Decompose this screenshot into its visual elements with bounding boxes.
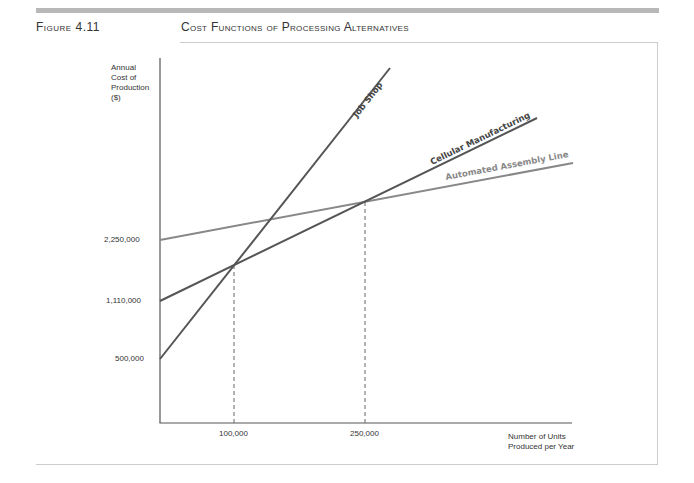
label-job-shop: Job Shop [350, 80, 385, 120]
y-tick-500000: 500,000 [115, 354, 144, 363]
x-axis-label: Number of Units Produced per Year [508, 432, 574, 452]
y-tick-2250000: 2,250,000 [104, 235, 140, 244]
line-cellular-manufacturing [160, 118, 537, 301]
x-tick-250000: 250,000 [350, 429, 379, 438]
y-tick-1110000: 1,110,000 [106, 296, 141, 305]
x-tick-100000: 100,000 [219, 429, 248, 438]
